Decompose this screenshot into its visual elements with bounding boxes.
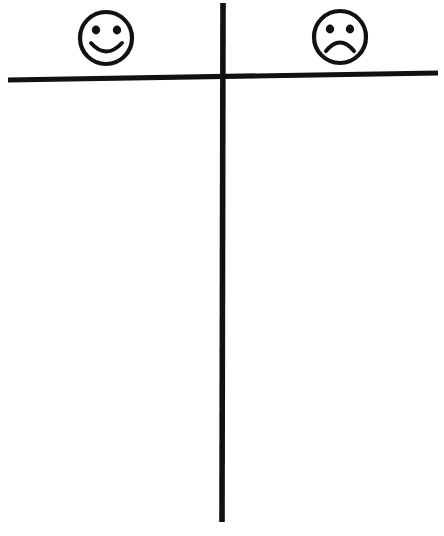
t-chart-drawing	[0, 0, 444, 536]
sad-face-icon	[314, 11, 366, 63]
sad-mouth-frown	[326, 43, 354, 52]
smiley-left-eye	[92, 26, 100, 35]
sad-right-eye	[346, 25, 354, 34]
t-chart-rules	[8, 3, 438, 522]
smiley-mouth-smile	[91, 43, 122, 52]
smiley-right-eye	[113, 26, 121, 35]
t-chart-canvas	[0, 0, 444, 536]
smiley-face-outline	[80, 12, 132, 64]
sad-face-outline	[314, 11, 366, 63]
vertical-divider-line	[222, 3, 223, 522]
smiley-face-icon	[80, 12, 132, 64]
sad-left-eye	[326, 25, 334, 34]
